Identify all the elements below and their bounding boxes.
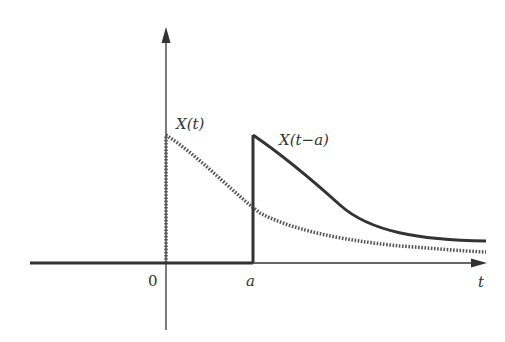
label-xt-a: X(t−a) — [278, 131, 329, 149]
label-xt: X(t) — [175, 115, 205, 133]
horizontal-axis-arrow-icon — [471, 259, 487, 268]
label-a: a — [246, 272, 255, 290]
vertical-axis-arrow-icon — [162, 27, 171, 43]
label-t-axis: t — [478, 273, 485, 291]
original-curve-xt — [166, 135, 486, 263]
diagram-canvas: X(t) X(t−a) 0 a t — [0, 0, 505, 342]
shifted-curve-xt-a — [30, 135, 486, 263]
label-origin: 0 — [148, 272, 158, 290]
